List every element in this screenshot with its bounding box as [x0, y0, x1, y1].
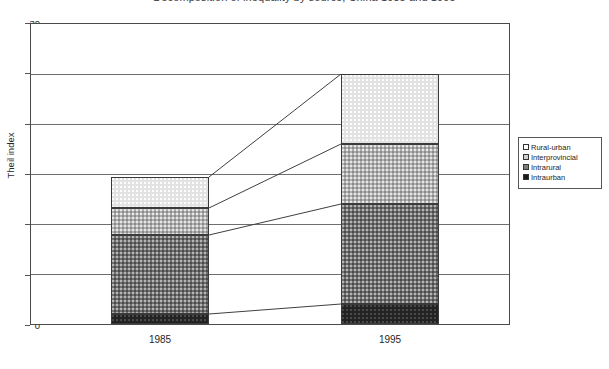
x-tick-label-1995: 1995 — [330, 334, 450, 345]
connector-line — [209, 144, 341, 208]
chart-root: Decomposition of inequality by source, C… — [0, 0, 609, 369]
legend-label: Interprovincial — [531, 153, 578, 162]
legend-label: Intraurban — [531, 173, 565, 182]
plot-area — [30, 23, 510, 325]
connector-line — [209, 304, 341, 314]
chart-title-clipped: Decomposition of inequality by source, C… — [0, 0, 609, 5]
connector-line — [209, 74, 341, 177]
bar-segment-intraurban — [111, 314, 209, 324]
legend-label: Rural-urban — [531, 143, 571, 152]
bar-segment-intraurban — [341, 304, 439, 324]
legend-item-rural-urban: Rural-urban — [523, 143, 598, 152]
bar-segment-intrarural — [111, 235, 209, 314]
legend-item-intrarural: Intrarural — [523, 163, 598, 172]
legend-swatch-interprovincial-icon — [523, 154, 529, 160]
bar-segment-rural-urban — [341, 74, 439, 144]
bar-1995 — [341, 24, 439, 324]
legend-swatch-rural-urban-icon — [523, 144, 529, 150]
y-axis-title: Theil index — [5, 96, 16, 216]
bar-1985 — [111, 24, 209, 324]
page-title: Decomposition of inequality by source, C… — [0, 0, 609, 3]
y-tick-mark — [25, 325, 30, 326]
bar-segment-intrarural — [341, 204, 439, 304]
legend-label: Intrarural — [531, 163, 561, 172]
legend: Rural-urbanInterprovincialIntraruralIntr… — [518, 137, 602, 189]
bar-segment-interprovincial — [341, 144, 439, 204]
x-tick-label-1985: 1985 — [100, 334, 220, 345]
legend-item-intraurban: Intraurban — [523, 173, 598, 182]
legend-swatch-intrarural-icon — [523, 164, 529, 170]
bar-segment-interprovincial — [111, 208, 209, 235]
connector-line — [209, 204, 341, 235]
legend-item-interprovincial: Interprovincial — [523, 153, 598, 162]
bar-segment-rural-urban — [111, 177, 209, 208]
legend-swatch-intraurban-icon — [523, 174, 529, 180]
